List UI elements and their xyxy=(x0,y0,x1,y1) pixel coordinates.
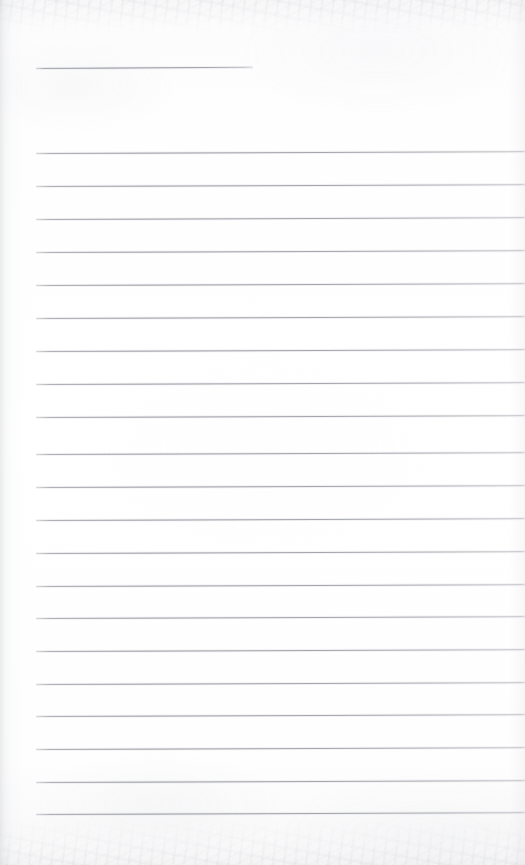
scanned-page xyxy=(0,0,525,865)
right-edge-scan-shadow xyxy=(509,0,525,865)
paper-background xyxy=(0,0,525,865)
header-rule-line xyxy=(36,67,253,69)
left-edge-scan-shadow xyxy=(0,0,26,865)
